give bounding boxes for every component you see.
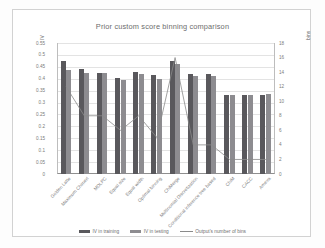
bar-iv-training <box>151 75 156 174</box>
bar-iv-training <box>115 78 120 174</box>
y-tick-label: 0 <box>21 172 45 177</box>
y-tick-label: 0.5 <box>21 52 45 57</box>
bar-iv-testing <box>66 70 71 174</box>
y-tick-label: 0.55 <box>21 41 45 46</box>
y-axis-title: IV <box>39 35 45 40</box>
bar-iv-testing <box>248 95 253 174</box>
bar-iv-training <box>188 74 193 174</box>
x-tick-label: MDLPC <box>93 176 108 191</box>
secondary-y-tick-label: 10 <box>279 99 295 104</box>
bar-group <box>97 43 108 174</box>
bar-group <box>206 43 217 174</box>
x-tick-label: Equal size <box>108 176 126 195</box>
bar-iv-testing <box>193 76 198 174</box>
secondary-y-tick-label: 16 <box>279 55 295 60</box>
bar-iv-training <box>79 69 84 174</box>
legend-label-iv-testing: IV in testing <box>144 229 169 234</box>
y-tick-label: 0.35 <box>21 88 45 93</box>
bar-group <box>170 43 181 174</box>
secondary-y-tick-label: 8 <box>279 113 295 118</box>
legend-label-iv-training: IV in training <box>92 229 119 234</box>
bar-iv-testing <box>157 79 162 174</box>
y-tick-label: 0.45 <box>21 64 45 69</box>
chart-title: Prior custom score binning comparison <box>13 22 312 31</box>
bar-iv-training <box>61 61 66 174</box>
bar-iv-testing <box>175 64 180 174</box>
bar-group <box>133 43 144 174</box>
bar-group <box>188 43 199 174</box>
secondary-y-tick-label: 0 <box>279 172 295 177</box>
bar-iv-testing <box>84 73 89 174</box>
bar-iv-training <box>260 95 265 174</box>
y-tick-label: 0.4 <box>21 76 45 81</box>
bar-group <box>61 43 72 174</box>
x-tick-label: Ameva <box>258 176 272 190</box>
bar-iv-training <box>97 73 102 174</box>
legend-label-bins: Output's number of bins <box>195 229 246 234</box>
x-tick-label: ChiMerge <box>163 176 181 194</box>
x-tick-label: ChiM <box>224 176 235 187</box>
secondary-y-axis-title: bins <box>305 31 311 40</box>
bar-group <box>79 43 90 174</box>
bar-iv-testing <box>139 74 144 174</box>
secondary-y-tick-label: 12 <box>279 84 295 89</box>
secondary-y-tick-label: 14 <box>279 70 295 75</box>
y-tick-label: 0.15 <box>21 136 45 141</box>
bar-group <box>115 43 126 174</box>
bar-iv-training <box>242 95 247 174</box>
bar-iv-training <box>133 72 138 174</box>
bar-iv-training <box>170 61 175 174</box>
y-tick-label: 0.3 <box>21 100 45 105</box>
bar-iv-testing <box>230 95 235 174</box>
legend-item-bins: Output's number of bins <box>180 229 246 234</box>
bar-group <box>242 43 253 174</box>
y-tick-label: 0.25 <box>21 112 45 117</box>
x-tick-label: CACC <box>241 176 254 189</box>
secondary-y-tick-label: 18 <box>279 41 295 46</box>
legend-swatch-iv-training <box>79 230 90 233</box>
y-tick-label: 0.05 <box>21 160 45 165</box>
bar-iv-testing <box>266 94 271 174</box>
secondary-y-tick-label: 2 <box>279 157 295 162</box>
secondary-y-tick-label: 6 <box>279 128 295 133</box>
bar-series-layer <box>57 43 275 174</box>
bar-iv-training <box>206 74 211 174</box>
legend-item-iv-training: IV in training <box>79 229 119 234</box>
y-tick-label: 0.2 <box>21 124 45 129</box>
bar-group <box>224 43 235 174</box>
bar-group <box>151 43 162 174</box>
y-tick-label: 0.1 <box>21 148 45 153</box>
legend-swatch-iv-testing <box>130 230 141 233</box>
legend-swatch-bins <box>180 231 193 232</box>
bar-iv-testing <box>102 73 107 174</box>
bar-iv-testing <box>121 80 126 174</box>
chart-legend: IV in training IV in testing Output's nu… <box>13 229 312 234</box>
bar-iv-training <box>224 95 229 174</box>
chart-container: Prior custom score binning comparison IV… <box>12 9 311 237</box>
bar-group <box>260 43 271 174</box>
screenshot-root: Prior custom score binning comparison IV… <box>0 0 325 248</box>
secondary-y-tick-label: 4 <box>279 142 295 147</box>
bar-iv-testing <box>211 76 216 174</box>
legend-item-iv-testing: IV in testing <box>130 229 169 234</box>
